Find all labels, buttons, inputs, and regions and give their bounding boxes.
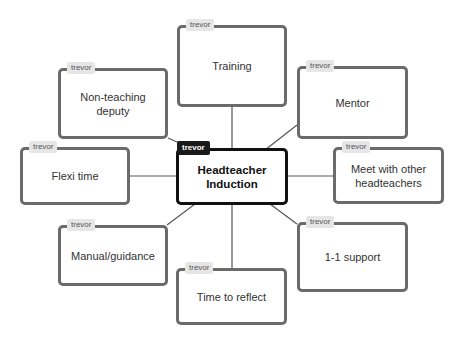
node-training[interactable]: trevor Training <box>177 25 287 107</box>
node-time-to-reflect[interactable]: trevor Time to reflect <box>176 268 287 325</box>
link-mentor <box>265 125 297 150</box>
author-tag: trevor <box>67 62 95 74</box>
node-label: Time to reflect <box>197 290 266 304</box>
node-1-1-support[interactable]: trevor 1-1 support <box>297 222 408 292</box>
author-tag: trevor <box>342 141 370 153</box>
author-tag: trevor <box>186 19 214 31</box>
node-label: Non-teaching deputy <box>69 90 157 118</box>
author-tag: trevor <box>177 141 210 155</box>
author-tag: trevor <box>67 219 95 231</box>
center-label-line1: Headteacher <box>197 163 266 177</box>
node-label: 1-1 support <box>325 250 381 264</box>
node-label: Mentor <box>335 96 369 110</box>
node-label: Meet with other headteachers <box>344 162 433 190</box>
author-tag: trevor <box>306 60 334 72</box>
node-label: Flexi time <box>51 169 98 183</box>
link-1-1-support <box>270 204 297 224</box>
node-label: Manual/guidance <box>71 249 155 263</box>
author-tag: trevor <box>185 262 213 274</box>
node-center-headteacher-induction[interactable]: trevor Headteacher Induction <box>176 148 288 205</box>
node-manual-guidance[interactable]: trevor Manual/guidance <box>58 225 168 286</box>
link-manual-guidance <box>167 204 195 225</box>
node-mentor[interactable]: trevor Mentor <box>297 66 408 139</box>
author-tag: trevor <box>306 216 334 228</box>
author-tag: trevor <box>29 141 57 153</box>
node-non-teaching-deputy[interactable]: trevor Non-teaching deputy <box>58 68 168 139</box>
node-flexi-time[interactable]: trevor Flexi time <box>20 147 130 205</box>
center-label-line2: Induction <box>206 177 258 191</box>
node-meet-with-other-headteachers[interactable]: trevor Meet with other headteachers <box>333 147 444 204</box>
node-label: Training <box>212 59 251 73</box>
